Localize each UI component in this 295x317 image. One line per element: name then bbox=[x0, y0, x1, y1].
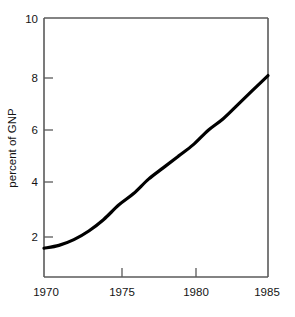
x-axis-tick-labels: 1970 1975 1980 1985 bbox=[33, 286, 280, 298]
data-series-percent-of-gnp bbox=[44, 76, 268, 249]
x-tick-label-1970: 1970 bbox=[33, 286, 59, 298]
y-tick-label-2: 2 bbox=[32, 231, 38, 243]
y-tick-label-10: 10 bbox=[25, 13, 38, 25]
chart-canvas: 2 4 6 8 10 1970 1975 1980 1985 percent o… bbox=[0, 0, 295, 317]
x-tick-label-1980: 1980 bbox=[183, 286, 209, 298]
x-axis-ticks bbox=[122, 268, 196, 277]
y-axis-ticks bbox=[44, 78, 53, 237]
y-axis-title: percent of GNP bbox=[6, 108, 18, 188]
y-tick-label-4: 4 bbox=[32, 176, 39, 188]
y-axis-tick-labels: 2 4 6 8 10 bbox=[25, 13, 38, 243]
y-tick-label-8: 8 bbox=[32, 72, 38, 84]
y-tick-label-6: 6 bbox=[32, 124, 38, 136]
x-tick-label-1985: 1985 bbox=[254, 286, 280, 298]
chart-figure: 2 4 6 8 10 1970 1975 1980 1985 percent o… bbox=[0, 0, 295, 317]
x-tick-label-1975: 1975 bbox=[109, 286, 135, 298]
